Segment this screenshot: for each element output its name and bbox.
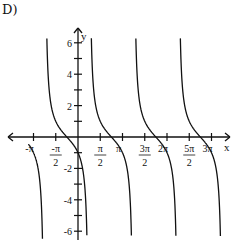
y-tick-label: 4: [67, 69, 72, 80]
x-axis-label: x: [224, 141, 230, 153]
x-tick-label-denominator: 2: [142, 157, 147, 168]
y-tick-label: 6: [67, 38, 72, 49]
x-tick-label-numerator: π: [98, 143, 103, 154]
y-tick-label: -2: [64, 163, 72, 174]
y-tick-label: -4: [64, 195, 72, 206]
y-axis-label: y: [81, 30, 87, 42]
x-tick-label-denominator: 2: [98, 157, 103, 168]
x-tick-label-denominator: 2: [187, 157, 192, 168]
x-tick-label-numerator: 3π: [140, 143, 150, 154]
y-tick-label: -6: [64, 226, 72, 237]
x-tick-label-numerator: 5π: [184, 143, 194, 154]
cotangent-graph: xy-π-π2π2π3π22π5π23π642-2-4-6: [0, 0, 238, 243]
x-tick-label-denominator: 2: [53, 157, 58, 168]
curve-branch: [28, 144, 42, 239]
y-tick-label: 2: [67, 101, 72, 112]
x-tick-label-numerator: -π: [52, 143, 60, 154]
